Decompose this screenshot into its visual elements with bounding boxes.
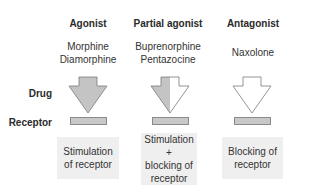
effect-text: of receptor xyxy=(63,158,112,171)
arrow-antagonist-icon xyxy=(233,77,271,113)
arrow-agonist-icon xyxy=(69,77,107,113)
effect-box-agonist: Stimulation of receptor xyxy=(57,137,119,179)
receptor-antagonist xyxy=(234,117,271,125)
effect-text: receptor xyxy=(228,158,277,171)
effect-box-antagonist: Blocking of receptor xyxy=(222,137,283,179)
effect-text: blocking of xyxy=(141,159,197,172)
effect-text: receptor xyxy=(141,172,197,185)
receptor-agonist xyxy=(70,117,107,125)
receptor-partial-agonist xyxy=(152,117,189,125)
arrow-partial-agonist-icon xyxy=(151,77,189,113)
effect-text: Stimulation + xyxy=(141,133,197,159)
effect-text: Blocking of xyxy=(228,145,277,158)
effect-box-partial-agonist: Stimulation + blocking of receptor xyxy=(141,133,197,185)
effect-text: Stimulation xyxy=(63,145,112,158)
